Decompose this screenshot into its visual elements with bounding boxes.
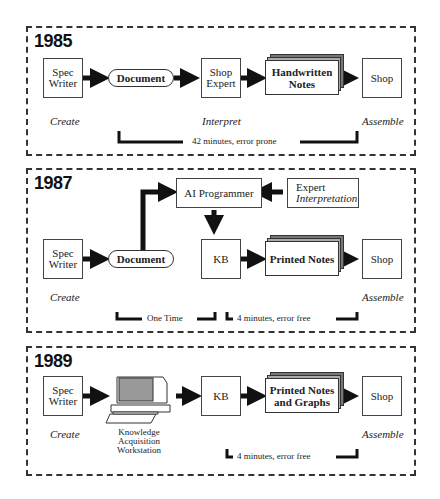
stage-assemble: Assemble: [362, 428, 404, 440]
printed-notes-graphs-stack: Printed Notes and Graphs: [265, 372, 344, 413]
workstation-label: Knowledge Acquisition Workstation: [111, 428, 167, 455]
shop-box: Shop: [362, 376, 402, 416]
stage-create: Create: [50, 428, 80, 440]
kb-box: KB: [201, 376, 241, 416]
workstation-icon: [0, 0, 440, 499]
timing-label: 4 minutes, error free: [234, 451, 313, 461]
printed-notes-graphs-label: Printed Notes and Graphs: [265, 378, 339, 413]
